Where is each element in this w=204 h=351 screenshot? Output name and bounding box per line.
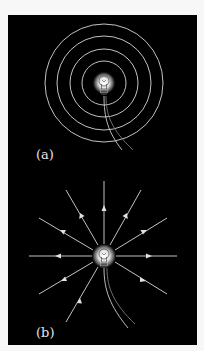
field-diagram (0, 0, 204, 351)
arrow-right-icon (146, 254, 152, 259)
light-bulb-icon (91, 243, 117, 269)
arrow-icon (140, 277, 146, 282)
arrow-icon (61, 277, 67, 282)
panel-a-label: (a) (36, 148, 54, 161)
panel-b-label: (b) (36, 326, 54, 339)
arrow-up-icon (102, 205, 107, 211)
panel-b-wire (104, 268, 135, 328)
arrow-left-icon (55, 254, 61, 259)
light-bulb-icon (92, 71, 116, 95)
